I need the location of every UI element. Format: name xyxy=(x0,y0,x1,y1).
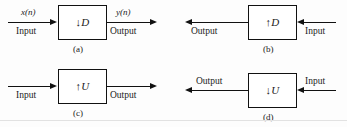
panel-d-block: ↓U xyxy=(248,73,297,108)
panel-a-input-arrowhead xyxy=(50,19,57,25)
panel-b-block-label: ↑D xyxy=(266,17,280,28)
panel-d-block-label: ↓U xyxy=(266,85,280,96)
panel-a-caption: (a) xyxy=(73,45,83,54)
panel-c-input-label: Input xyxy=(16,91,36,101)
panel-d-output-label: Output xyxy=(196,77,222,87)
panel-d: Output ↓U Input (d) xyxy=(174,62,347,125)
panel-c-input-line xyxy=(8,86,52,87)
figure-sampling-rate-conversion: x(n) Input ↓D y(n) Output (a) Output ↑D … xyxy=(0,0,347,127)
panel-c-caption: (c) xyxy=(73,109,83,118)
panel-c-output-arrowhead xyxy=(150,83,157,89)
panel-b-input-line xyxy=(303,22,336,23)
panel-a-input-signal-label: x(n) xyxy=(21,8,36,17)
panel-a-output-signal-label: y(n) xyxy=(116,8,131,17)
panel-b-block: ↑D xyxy=(248,5,297,40)
panel-c: Input ↑U Output (c) xyxy=(0,62,173,125)
panel-b-caption: (b) xyxy=(263,45,274,54)
panel-c-block: ↑U xyxy=(58,69,107,104)
panel-c-input-arrowhead xyxy=(50,83,57,89)
panel-b: Output ↑D Input (b) xyxy=(174,0,347,63)
panel-d-input-arrowhead xyxy=(297,87,304,93)
panel-d-output-line xyxy=(191,90,248,91)
panel-a-block: ↓D xyxy=(58,5,107,40)
bottom-rule xyxy=(0,120,347,121)
panel-c-output-label: Output xyxy=(110,91,136,101)
panel-d-input-line xyxy=(303,90,336,91)
panel-a-output-label: Output xyxy=(110,27,136,37)
panel-c-output-line xyxy=(107,86,152,87)
panel-a-output-line xyxy=(107,22,152,23)
panel-d-input-label: Input xyxy=(305,77,325,87)
panel-b-input-label: Input xyxy=(305,27,325,37)
panel-a-block-label: ↓D xyxy=(76,17,90,28)
panel-a-input-line xyxy=(8,22,52,23)
panel-a-output-arrowhead xyxy=(150,19,157,25)
panel-b-output-label: Output xyxy=(191,27,217,37)
panel-b-output-line xyxy=(191,22,248,23)
panel-a: x(n) Input ↓D y(n) Output (a) xyxy=(0,0,173,63)
panel-a-input-label: Input xyxy=(16,27,36,37)
panel-b-input-arrowhead xyxy=(297,19,304,25)
panel-c-block-label: ↑U xyxy=(76,81,90,92)
